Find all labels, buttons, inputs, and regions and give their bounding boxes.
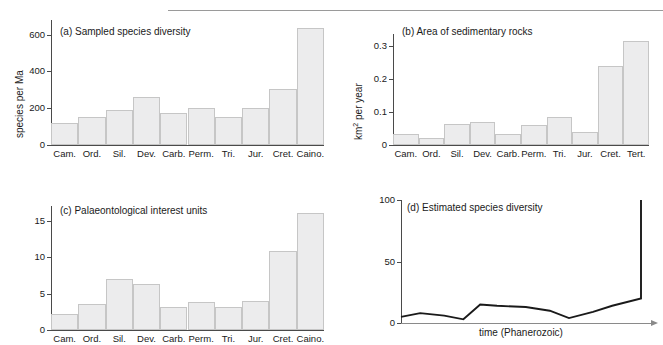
y-tick-label: 10 [9,252,45,262]
bar [106,110,133,145]
bar [297,28,324,145]
bar [51,123,78,145]
bar [470,122,496,145]
y-tick [389,46,393,47]
panel-d-plot: 050100 [401,200,641,323]
bar [106,279,133,330]
bar [133,284,160,330]
bar [495,134,521,145]
panel-d: (d) Estimated species diversity % of Cai… [340,188,663,345]
bar [215,117,242,145]
panel-d-time-axis [401,323,653,324]
y-tick-label: 0 [9,325,45,335]
bar [269,89,296,145]
y-tick-label: 0 [351,140,387,150]
panel-b-ylabel-base: km [353,127,364,140]
y-tick [47,257,51,258]
y-tick [389,112,393,113]
bar [393,134,419,145]
bar [572,132,598,145]
y-tick [47,35,51,36]
y-tick-label: 15 [9,216,45,226]
y-tick [47,221,51,222]
panel-b-x-axis [393,145,649,146]
bar [419,138,445,145]
panel-c-plot: 051015 [51,206,324,330]
panel-b-y-axis [393,34,394,145]
y-tick-label: 0.3 [351,41,387,51]
bar [598,66,624,145]
bar [269,251,296,330]
bar [133,97,160,145]
bar [78,117,105,145]
y-tick-label: 0 [9,140,45,150]
panel-c-y-axis [51,206,52,330]
bar [78,304,105,330]
y-tick-label: 400 [9,66,45,76]
diversity-curve [401,200,641,319]
y-tick [47,145,51,146]
y-tick [47,294,51,295]
panel-b: (b) Area of sedimentary rocks km2 per ye… [340,14,663,180]
panel-a-x-labels: Cam.Ord.Sil.Dev.Carb.Perm.Tri.Jur.Cret.C… [51,148,324,160]
y-tick-label: 50 [359,257,395,267]
y-tick [389,145,393,146]
figure-panel-grid: (a) Sampled species diversity species pe… [0,0,663,345]
header-rule [168,10,663,11]
bar [242,108,269,145]
panel-a-x-axis [51,145,324,146]
panel-b-ylabel-sup: 2 [352,123,359,127]
y-tick [47,71,51,72]
y-tick-label: 200 [9,103,45,113]
y-tick-label: 100 [359,195,395,205]
bar [521,125,547,145]
y-tick-label: 0.1 [351,107,387,117]
bar [547,117,573,145]
panel-a: (a) Sampled species diversity species pe… [0,14,340,180]
bar [623,41,649,145]
panel-d-axis-arrowhead [651,320,658,326]
panel-b-plot: 00.10.20.3 [393,34,649,145]
bar [160,307,187,330]
panel-a-plot: 0200400600 [51,20,324,145]
bar [242,301,269,330]
bar [160,113,187,145]
x-tick-label: Caino. [291,333,330,345]
panel-c-x-labels: Cam.Ord.Sil.Dev.Carb.Perm.Tri.Jur.Cret.C… [51,333,324,345]
x-tick-label: Caino. [291,148,330,160]
bar [215,307,242,330]
bar [297,213,324,330]
panel-c-x-axis [51,330,324,331]
bar [188,108,215,145]
y-tick-label: 5 [9,289,45,299]
running-head [432,0,582,7]
panel-b-x-labels: Cam.Ord.Sil.Dev.Carb.Perm.Tri.Jur.Cret.T… [393,148,649,160]
y-tick [47,330,51,331]
y-tick [389,79,393,80]
panel-c: (c) Palaeontological interest units unit… [0,188,340,345]
bar [444,124,470,145]
y-tick-label: 600 [9,30,45,40]
panel-d-xlabel: time (Phanerozoic) [401,327,641,338]
y-tick [47,108,51,109]
bar [51,314,78,330]
y-tick-label: 0.2 [351,74,387,84]
bar [188,302,215,330]
diversity-curve-svg [401,200,641,323]
x-tick-label: Tert. [617,148,655,160]
y-tick-label: 0 [359,318,395,328]
